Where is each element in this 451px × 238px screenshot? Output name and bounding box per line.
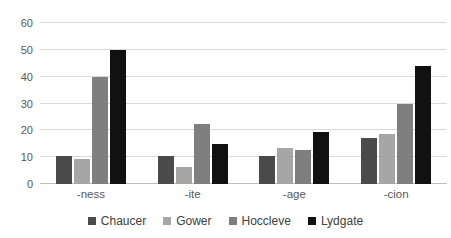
y-tick-label-0: 0 [0,179,33,190]
y-tick-label-20: 20 [0,125,33,136]
legend: ChaucerGowerHoccleveLydgate [0,215,451,227]
grouped-bar-chart: 0102030405060 -ness-ite-age-cion Chaucer… [0,0,451,238]
bar-lydgate-cion [415,66,431,184]
bar-gower-age [277,148,293,184]
bar-hoccleve-age [295,150,311,184]
legend-label-hoccleve: Hoccleve [242,215,291,227]
x-category-label-age: -age [244,188,346,204]
x-category-label-ness: -ness [40,188,142,204]
bar-hoccleve-cion [397,104,413,185]
y-axis: 0102030405060 [0,23,33,184]
bar-lydgate-age [313,132,329,184]
x-axis: -ness-ite-age-cion [40,188,447,204]
legend-item-gower: Gower [163,215,211,227]
bar-chaucer-ite [158,156,174,184]
legend-item-hoccleve: Hoccleve [229,215,291,227]
legend-swatch-icon [88,217,96,225]
y-tick-label-50: 50 [0,44,33,55]
bar-gower-ite [176,167,192,184]
bar-chaucer-cion [361,138,377,184]
x-category-label-ite: -ite [142,188,244,204]
legend-swatch-icon [229,217,237,225]
y-tick-label-40: 40 [0,71,33,82]
bar-group-cion [345,23,447,184]
legend-item-chaucer: Chaucer [88,215,146,227]
legend-item-lydgate: Lydgate [308,215,363,227]
bar-hoccleve-ness [92,77,108,184]
bar-group-ness [40,23,142,184]
bar-gower-cion [379,134,395,184]
bar-chaucer-age [259,156,275,184]
bar-groups [40,23,447,184]
legend-label-chaucer: Chaucer [101,215,146,227]
y-tick-label-60: 60 [0,18,33,29]
y-tick-label-10: 10 [0,152,33,163]
y-tick-label-30: 30 [0,98,33,109]
bar-lydgate-ness [110,50,126,184]
legend-label-lydgate: Lydgate [321,215,363,227]
x-category-label-cion: -cion [345,188,447,204]
bar-group-ite [142,23,244,184]
bar-gower-ness [74,159,90,184]
bar-group-age [244,23,346,184]
bar-hoccleve-ite [194,124,210,184]
bar-lydgate-ite [212,144,228,184]
legend-label-gower: Gower [176,215,211,227]
bar-chaucer-ness [56,156,72,184]
plot-area [40,23,447,184]
legend-swatch-icon [308,217,316,225]
legend-swatch-icon [163,217,171,225]
